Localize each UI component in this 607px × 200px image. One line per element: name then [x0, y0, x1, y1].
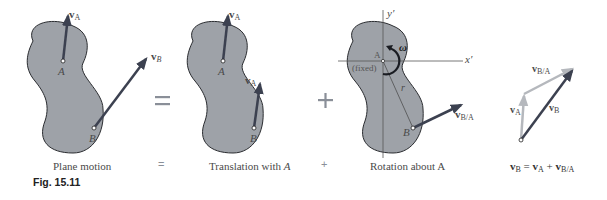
label-vBA: vB/A [455, 108, 474, 122]
point-A [221, 59, 225, 63]
vector-triangle-panel [519, 69, 572, 142]
label-vA-at-B: vA [245, 74, 256, 88]
triangle-label-vBA: vB/A [532, 63, 550, 76]
panel-label-plane-motion: Plane motion [53, 160, 111, 172]
point-A [381, 59, 384, 62]
velocity-equation: vB = vA + vB/A [510, 160, 574, 174]
equals-small: = [158, 158, 164, 170]
label-x-axis: x′ [465, 53, 472, 65]
label-point-A: A [58, 65, 65, 77]
rigid-body-shape [347, 21, 423, 153]
plus-operator [318, 93, 333, 108]
label-omega: ω [399, 41, 407, 53]
panel-label-translation: Translation with A [209, 160, 291, 172]
label-point-A: A [374, 50, 381, 60]
figure-caption: Fig. 15.11 [33, 176, 80, 188]
triangle-origin [519, 138, 523, 142]
label-point-B: B [250, 132, 257, 144]
label-point-B: B [89, 132, 96, 144]
triangle-label-vA: vA [510, 104, 521, 117]
label-fixed: (fixed) [352, 63, 377, 73]
vector-vB [94, 59, 146, 128]
point-B [252, 126, 256, 130]
point-B [411, 126, 415, 130]
label-y-axis: y′ [387, 7, 394, 19]
triangle-label-vB: vB [549, 102, 559, 115]
label-vA-at-A: vA [229, 8, 240, 22]
label-vB: vB [151, 50, 161, 64]
label-point-B: B [403, 126, 410, 138]
equals-operator [155, 96, 170, 105]
label-radius: r [401, 82, 405, 93]
label-vA: vA [69, 8, 80, 22]
panel-label-rotation: Rotation about A [370, 160, 445, 172]
triangle-vector-vA [521, 96, 524, 140]
point-A [61, 59, 65, 63]
point-B [92, 126, 96, 130]
plus-small: + [321, 158, 327, 170]
label-point-A: A [218, 65, 225, 77]
plane-motion-panel [27, 16, 146, 153]
